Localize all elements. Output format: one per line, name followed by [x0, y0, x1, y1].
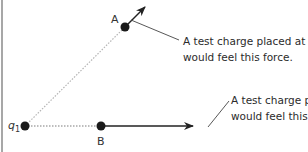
point-b-dot — [97, 122, 106, 131]
point-a-label: A — [111, 13, 119, 26]
callout-a-line1: A test charge placed at A — [183, 35, 308, 47]
point-b-label: B — [97, 135, 105, 148]
callout-b-line1: A test charge placed at B — [231, 94, 308, 106]
dotted-line-q1-to-a — [25, 27, 125, 126]
charge-q1-dot — [21, 122, 30, 131]
electric-force-diagram: q1 B A A test charge placed at A would f… — [0, 0, 308, 152]
charge-q1-label: q1 — [8, 119, 20, 134]
callout-a-line2: would feel this force. — [183, 51, 293, 63]
leader-line-b — [208, 101, 229, 127]
callout-b-line2: would feel this force. — [231, 110, 308, 122]
leader-line-a — [131, 20, 179, 40]
point-a-dot — [121, 23, 130, 32]
